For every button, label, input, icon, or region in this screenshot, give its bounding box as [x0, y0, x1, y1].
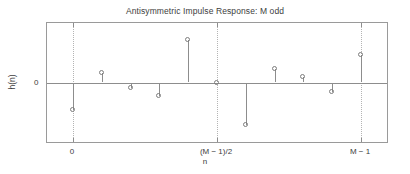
x-axis-label: n: [0, 157, 410, 166]
y-axis-tick-label: 0: [34, 77, 38, 86]
x-axis-tick-top: [361, 23, 362, 27]
stem-line: [73, 83, 74, 110]
stem-line: [188, 40, 189, 83]
y-axis-tick: [47, 83, 51, 84]
plot-area: [47, 23, 387, 142]
plot-axes-box: [46, 22, 388, 143]
x-axis-tick-top: [217, 23, 218, 27]
stem-marker: [70, 107, 75, 112]
x-axis-tick-label: M − 1: [350, 147, 370, 156]
stem-marker: [243, 122, 248, 127]
x-axis-tick-top: [73, 23, 74, 27]
stem-marker: [185, 37, 190, 42]
stem-marker: [358, 52, 363, 57]
x-axis-tick: [73, 138, 74, 142]
stem-line: [246, 83, 247, 126]
chart-title: Antisymmetric Impulse Response: M odd: [0, 6, 410, 16]
stem-marker: [300, 74, 305, 79]
x-axis-tick: [217, 138, 218, 142]
x-axis-tick: [361, 138, 362, 142]
x-axis-tick-label: (M − 1)/2: [200, 147, 232, 156]
figure-canvas: Antisymmetric Impulse Response: M odd h(…: [0, 0, 410, 174]
stem-marker: [329, 89, 334, 94]
stem-marker: [128, 85, 133, 90]
stem-marker: [156, 93, 161, 98]
stem-line: [275, 69, 276, 83]
stem-marker: [214, 80, 219, 85]
stem-marker: [272, 66, 277, 71]
stem-marker: [99, 70, 104, 75]
x-axis-tick-label: 0: [70, 147, 74, 156]
stem-line: [361, 55, 362, 82]
y-axis-tick-right: [383, 83, 387, 84]
y-axis-label: h(n): [7, 74, 17, 89]
